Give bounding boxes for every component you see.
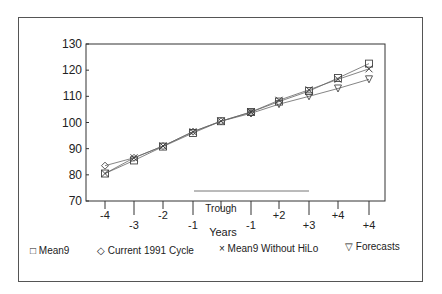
x-tick-label: -3 <box>129 219 139 231</box>
x-tick-label: -2 <box>158 209 168 221</box>
legend-item-current-1991-cycle: ◇ Current 1991 Cycle <box>97 245 194 256</box>
x-tick-label: +4 <box>332 209 345 221</box>
legend-item-forecasts: ▽ Forecasts <box>345 241 400 252</box>
x-tick-label: +2 <box>273 209 286 221</box>
y-tick-label: 70 <box>69 194 83 208</box>
y-tick-label: 120 <box>62 63 82 77</box>
y-tick-label: 100 <box>62 116 82 130</box>
x-tick-label: -1 <box>246 219 256 231</box>
y-tick-label: 110 <box>63 89 82 103</box>
x-tick-label: +4 <box>363 219 376 231</box>
x-tick-label: -4 <box>100 209 110 221</box>
series-line-mean9-without-hilo <box>105 69 369 174</box>
series-line-mean9 <box>105 64 369 174</box>
line-chart: 130120110100908070-4-3-2-1Trough-1+2+3+4… <box>0 0 442 294</box>
y-tick-label: 80 <box>69 168 83 182</box>
plot-area <box>86 44 385 201</box>
x-tick-label: +3 <box>303 219 316 231</box>
y-tick-label: 90 <box>69 142 83 156</box>
legend-item-mean9: □ Mean9 <box>30 245 70 256</box>
y-tick-label: 130 <box>62 37 82 51</box>
series-line-forecasts <box>251 79 369 113</box>
x-axis-title: Years <box>209 226 237 238</box>
x-tick-label: -1 <box>188 219 198 231</box>
legend-item-mean9-without-hilo: × Mean9 Without HiLo <box>219 243 319 254</box>
x-tick-label: Trough <box>205 203 236 214</box>
